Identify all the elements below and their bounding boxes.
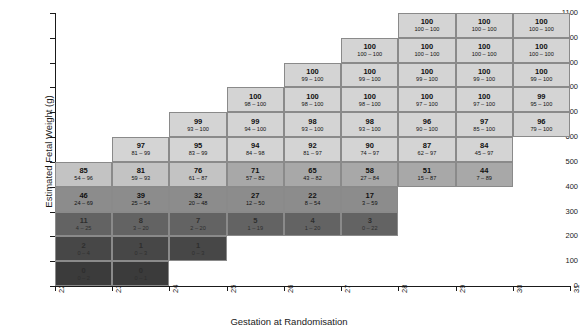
cell-value: 90	[366, 141, 374, 150]
cell-credible-interval: 43 – 82	[303, 175, 322, 182]
heatmap-cell: 3925 – 54	[112, 187, 169, 212]
x-tick-label: 25	[230, 285, 238, 293]
x-tick-mark	[456, 286, 457, 291]
cell-value: 3	[368, 216, 372, 225]
heatmap-cell: 228 – 54	[284, 187, 341, 212]
heatmap-cell: 9781 – 99	[112, 137, 169, 162]
cell-credible-interval: 54 – 96	[74, 175, 93, 182]
cell-credible-interval: 1 – 19	[247, 225, 263, 232]
heatmap-cell: 9995 – 100	[513, 87, 570, 112]
cell-credible-interval: 0 – 1	[135, 275, 147, 282]
cell-credible-interval: 100 – 100	[472, 51, 497, 58]
heatmap-cell: 00 – 2	[55, 261, 112, 286]
cell-value: 99	[251, 117, 259, 126]
y-tick-label: 100	[532, 257, 578, 265]
cell-credible-interval: 93 – 100	[302, 126, 324, 133]
heatmap-cell: 30 – 22	[341, 212, 398, 237]
cell-value: 1	[139, 241, 143, 250]
cell-value: 2	[82, 241, 86, 250]
heatmap-cell: 8445 – 97	[456, 137, 513, 162]
cell-credible-interval: 25 – 54	[131, 200, 150, 207]
cell-value: 100	[421, 67, 434, 76]
cell-value: 11	[80, 216, 88, 225]
cell-value: 32	[194, 191, 202, 200]
cell-credible-interval: 81 – 99	[131, 150, 150, 157]
heatmap-cell: 9074 – 97	[341, 137, 398, 162]
y-tick-label: 500	[532, 158, 578, 166]
heatmap-cell: 9993 – 100	[169, 112, 226, 137]
cell-credible-interval: 12 – 50	[246, 200, 265, 207]
cell-credible-interval: 100 – 100	[529, 26, 554, 33]
cell-credible-interval: 99 – 100	[302, 76, 324, 83]
x-axis-line	[55, 286, 570, 287]
cell-value: 100	[535, 17, 548, 26]
heatmap-cell: 10 – 3	[169, 236, 226, 261]
heatmap-cell: 9893 – 100	[284, 112, 341, 137]
heatmap-cell: 4624 – 69	[55, 187, 112, 212]
cell-credible-interval: 85 – 100	[473, 126, 495, 133]
cell-credible-interval: 3 – 20	[133, 225, 149, 232]
heatmap-cell: 100100 – 100	[456, 13, 513, 38]
cell-credible-interval: 0 – 4	[77, 250, 89, 257]
cell-value: 97	[480, 117, 488, 126]
cell-value: 0	[82, 266, 86, 275]
heatmap-cell: 100100 – 100	[513, 13, 570, 38]
x-tick-mark	[513, 286, 514, 291]
x-tick-label: 27	[344, 285, 352, 293]
cell-value: 100	[421, 17, 434, 26]
cell-credible-interval: 99 – 100	[359, 76, 381, 83]
cell-credible-interval: 74 – 97	[360, 150, 379, 157]
cell-value: 8	[139, 216, 143, 225]
cell-value: 100	[363, 92, 376, 101]
heatmap-cell: 6543 – 82	[284, 162, 341, 187]
heatmap-cell: 100100 – 100	[341, 38, 398, 63]
x-tick-label: 28	[401, 285, 409, 293]
cell-value: 51	[423, 166, 431, 175]
cell-value: 100	[249, 92, 262, 101]
cell-value: 100	[306, 92, 319, 101]
heatmap-cell: 100100 – 100	[456, 38, 513, 63]
cell-value: 94	[251, 141, 259, 150]
cell-credible-interval: 100 – 100	[414, 51, 439, 58]
cell-credible-interval: 81 – 97	[303, 150, 322, 157]
cell-credible-interval: 57 – 82	[246, 175, 265, 182]
cell-credible-interval: 62 – 97	[418, 150, 437, 157]
cell-credible-interval: 27 – 84	[360, 175, 379, 182]
x-tick-mark	[227, 286, 228, 291]
cell-credible-interval: 83 – 99	[189, 150, 208, 157]
cell-value: 99	[194, 117, 202, 126]
cell-credible-interval: 24 – 69	[74, 200, 93, 207]
cell-value: 100	[535, 67, 548, 76]
heatmap-cell: 10099 – 100	[398, 63, 455, 88]
cell-credible-interval: 95 – 100	[530, 101, 552, 108]
heatmap-cell: 10097 – 100	[456, 87, 513, 112]
heatmap-cell: 3220 – 48	[169, 187, 226, 212]
cell-value: 71	[251, 166, 259, 175]
heatmap-cell: 100100 – 100	[398, 38, 455, 63]
cell-value: 96	[423, 117, 431, 126]
heatmap-cell: 10099 – 100	[513, 63, 570, 88]
heatmap-cell: 9679 – 100	[513, 112, 570, 137]
cell-value: 100	[306, 67, 319, 76]
heatmap-cell: 8554 – 96	[55, 162, 112, 187]
cell-credible-interval: 98 – 100	[359, 101, 381, 108]
cell-value: 44	[480, 166, 488, 175]
cell-value: 39	[137, 191, 145, 200]
cell-credible-interval: 99 – 100	[473, 76, 495, 83]
cell-credible-interval: 99 – 100	[416, 76, 438, 83]
heatmap-cell: 9583 – 99	[169, 137, 226, 162]
heatmap-cell: 100100 – 100	[398, 13, 455, 38]
heatmap-cell: 20 – 4	[55, 236, 112, 261]
cell-credible-interval: 59 – 93	[131, 175, 150, 182]
cell-value: 81	[137, 166, 145, 175]
y-tick-label: 400	[532, 183, 578, 191]
cell-credible-interval: 0 – 22	[362, 225, 378, 232]
cell-credible-interval: 45 – 97	[475, 150, 494, 157]
cell-value: 65	[308, 166, 316, 175]
cell-value: 100	[363, 42, 376, 51]
x-tick-mark	[341, 286, 342, 291]
heatmap-cell: 51 – 19	[227, 212, 284, 237]
heatmap-cell: 10 – 3	[112, 236, 169, 261]
heatmap-cell: 9785 – 100	[456, 112, 513, 137]
cell-value: 76	[194, 166, 202, 175]
